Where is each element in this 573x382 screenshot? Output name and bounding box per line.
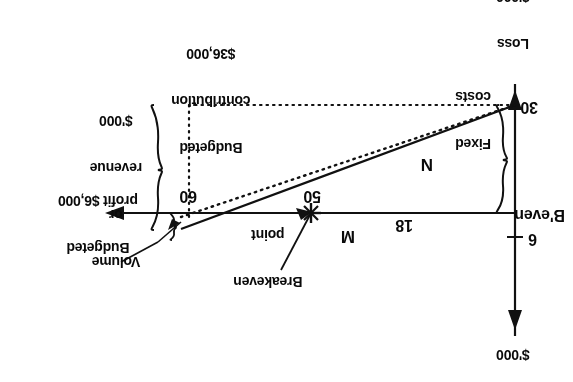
brace-fixed-costs xyxy=(497,105,508,213)
value-label-18: 18 xyxy=(396,216,413,234)
figure-canvas: Loss $'000 $'000 Volume or revenue $'000… xyxy=(0,0,573,382)
series-label-m: M xyxy=(341,227,355,246)
callout-budgeted-contribution-line2: contribution xyxy=(157,92,265,108)
tick-label-profit-6: 6 xyxy=(528,230,537,248)
breakeven-chart: Loss $'000 $'000 Volume or revenue $'000… xyxy=(0,0,573,382)
axis-label-profit: $'000 xyxy=(467,346,559,362)
tick-label-loss-30: 30 xyxy=(521,98,538,116)
tick-label-breakeven-axis: B'even xyxy=(514,206,565,224)
axis-arrow-profit xyxy=(508,310,522,330)
callout-budgeted-profit-line2: profit $6,000 xyxy=(35,192,161,208)
callout-budgeted-contribution: Budgeted contribution $36,000 xyxy=(157,14,265,186)
tick-label-volume-60: 60 xyxy=(180,187,197,205)
callout-fixed-costs: Fixed costs xyxy=(429,57,491,182)
callout-breakeven-point-line1: Breakeven xyxy=(213,273,323,289)
callout-breakeven-point: Breakeven point xyxy=(213,195,323,320)
callout-budgeted-profit: Budgeted profit $6,000 xyxy=(35,161,161,286)
callout-breakeven-point-line2: point xyxy=(213,226,323,242)
callout-budgeted-contribution-line3: $36,000 xyxy=(157,45,265,61)
callout-budgeted-contribution-line1: Budgeted xyxy=(157,139,265,155)
callout-fixed-costs-line2: costs xyxy=(429,88,491,104)
axis-label-loss-line1: Loss xyxy=(467,35,559,51)
axis-label-loss-line2: $'000 xyxy=(467,0,559,4)
callout-fixed-costs-line1: Fixed xyxy=(429,135,491,151)
callout-budgeted-profit-line1: Budgeted xyxy=(35,239,161,255)
